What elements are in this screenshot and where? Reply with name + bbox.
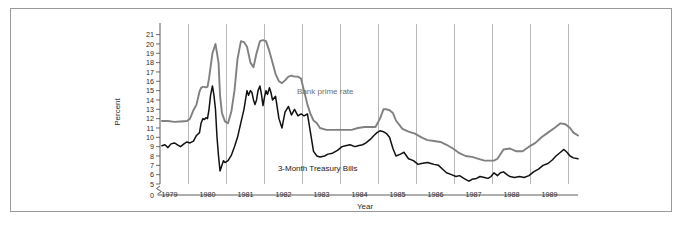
y-tick-label: 12: [146, 114, 154, 123]
y-tick-label: 10: [146, 133, 154, 142]
y-tick-label: 21: [146, 30, 154, 39]
x-tick-label: 1980: [200, 190, 216, 199]
x-axis: 1979198019811982198319841985198619871988…: [162, 190, 558, 199]
x-tick-label: 1981: [238, 190, 254, 199]
y-tick-label: 5: [150, 180, 154, 189]
x-tick-label: 1979: [162, 190, 178, 199]
y-tick-label: 14: [146, 96, 154, 105]
x-tick-label: 1983: [314, 190, 330, 199]
y-tick-label: 9: [150, 142, 154, 151]
y-tick-label: 16: [146, 77, 154, 86]
y-tick-label: 17: [146, 68, 154, 77]
x-tick-label: 1982: [276, 190, 292, 199]
series-line-treasury-bills: [162, 86, 578, 181]
x-tick-label: 1989: [542, 190, 558, 199]
x-tick-label: 1986: [428, 190, 444, 199]
y-tick-label: 19: [146, 49, 154, 58]
y-tick-label: 11: [147, 124, 154, 133]
series-label-treasury-bills: 3-Month Treasury Bills: [278, 164, 358, 173]
x-tick-label: 1987: [466, 190, 482, 199]
series-line-bank-prime-rate: [162, 40, 578, 160]
series-label-bank-prime-rate: Bank prime rate: [297, 87, 354, 96]
x-tick-label: 1985: [390, 190, 406, 199]
y-tick-label-zero: 0: [150, 191, 154, 200]
y-tick-label: 8: [150, 152, 154, 161]
data-series-group: [162, 40, 578, 181]
y-tick-label: 20: [146, 40, 154, 49]
x-tick-label: 1988: [504, 190, 520, 199]
y-tick-label: 18: [146, 58, 154, 67]
y-tick-label: 7: [150, 161, 154, 170]
y-axis-title: Percent: [113, 97, 122, 125]
y-tick-label: 6: [150, 170, 154, 179]
interest-rate-line-chart: 567891011121314151617181920210 197919801…: [0, 0, 684, 236]
y-axis: 567891011121314151617181920210: [146, 23, 578, 200]
y-tick-label: 13: [146, 105, 154, 114]
x-axis-title: Year: [357, 202, 374, 211]
x-tick-label: 1984: [352, 190, 368, 199]
y-tick-label: 15: [146, 86, 154, 95]
